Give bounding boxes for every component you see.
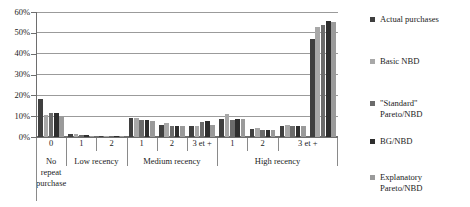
bar bbox=[114, 136, 119, 137]
bar bbox=[59, 117, 64, 137]
legend-swatch-icon bbox=[370, 175, 375, 180]
bar-group bbox=[187, 12, 217, 137]
x-axis-band-labels: No repeat purchaseLow recencyMedium rece… bbox=[36, 151, 338, 203]
bar bbox=[54, 113, 59, 137]
bar bbox=[170, 126, 175, 137]
y-axis-tick-label: 20% bbox=[14, 91, 30, 100]
band-separator bbox=[127, 138, 128, 166]
x-axis-tick-labels: 012123 et +123 et + bbox=[36, 138, 338, 151]
bar bbox=[260, 130, 265, 137]
y-axis-tick-label: 10% bbox=[14, 112, 30, 121]
bar-group bbox=[278, 12, 308, 137]
bar bbox=[90, 136, 95, 137]
bar bbox=[315, 27, 320, 137]
bar bbox=[271, 130, 276, 137]
bar-groups bbox=[36, 12, 338, 137]
legend-swatch-icon bbox=[370, 17, 375, 22]
bar bbox=[321, 25, 326, 138]
bar bbox=[120, 136, 125, 137]
bar bbox=[230, 120, 235, 137]
bar bbox=[68, 134, 73, 137]
legend-label: Basic NBD bbox=[380, 56, 419, 67]
x-axis-tick-label: 2 bbox=[247, 138, 277, 151]
chart-root: 0%10%20%30%40%50%60% 012123 et +123 et +… bbox=[0, 0, 470, 207]
legend-label: Actual purchases bbox=[380, 14, 439, 25]
bar bbox=[74, 134, 79, 137]
bar bbox=[296, 126, 301, 137]
bar bbox=[99, 136, 104, 137]
tick-separator bbox=[96, 138, 97, 151]
bar bbox=[195, 126, 200, 137]
y-axis-tick-label: 30% bbox=[14, 70, 30, 79]
tick-separator bbox=[278, 138, 279, 151]
bar bbox=[266, 130, 271, 138]
legend-label: Explanatory Pareto/NBD bbox=[380, 172, 423, 193]
bar bbox=[104, 136, 109, 137]
legend-item[interactable]: "Standard" Pareto/NBD bbox=[370, 98, 423, 119]
bar bbox=[145, 120, 150, 138]
bar bbox=[235, 119, 240, 137]
legend-item[interactable]: Basic NBD bbox=[370, 56, 419, 67]
bar bbox=[38, 99, 43, 137]
bar bbox=[205, 121, 210, 137]
bar bbox=[109, 136, 114, 137]
bar bbox=[175, 126, 180, 137]
x-axis-band-label: No repeat purchase bbox=[36, 151, 66, 203]
x-axis-tick-label: 3 et + bbox=[187, 138, 217, 151]
bar bbox=[331, 22, 336, 137]
legend-swatch-icon bbox=[370, 139, 375, 144]
legend-item[interactable]: BG/NBD bbox=[370, 136, 412, 147]
chart-legend: Actual purchasesBasic NBD"Standard" Pare… bbox=[370, 14, 470, 199]
bar-group bbox=[247, 12, 277, 137]
bar-group bbox=[127, 12, 157, 137]
legend-label: "Standard" Pareto/NBD bbox=[380, 98, 423, 119]
legend-swatch-icon bbox=[370, 59, 375, 64]
bar bbox=[301, 126, 306, 137]
bar bbox=[134, 118, 139, 137]
bar-group bbox=[36, 12, 66, 137]
bar bbox=[139, 120, 144, 137]
tick-separator bbox=[247, 138, 248, 151]
tick-separator bbox=[157, 138, 158, 151]
bar bbox=[326, 21, 331, 137]
bar bbox=[49, 113, 54, 137]
x-axis-tick-label: 0 bbox=[36, 138, 66, 151]
x-axis-band-label: Medium recency bbox=[127, 151, 218, 203]
x-axis-tick-label: 1 bbox=[66, 138, 96, 151]
bar bbox=[225, 114, 230, 137]
bar-group bbox=[96, 12, 126, 137]
x-axis-tick-label: 2 bbox=[96, 138, 126, 151]
bar bbox=[241, 119, 246, 137]
bar bbox=[159, 125, 164, 137]
legend-item[interactable]: Actual purchases bbox=[370, 14, 439, 25]
bar-group bbox=[217, 12, 247, 137]
bar-group bbox=[66, 12, 96, 137]
y-axis-tick-label: 60% bbox=[14, 8, 30, 17]
bar bbox=[290, 126, 295, 137]
bar bbox=[280, 126, 285, 137]
bar bbox=[250, 129, 255, 137]
bar bbox=[44, 115, 49, 137]
bar bbox=[79, 135, 84, 137]
legend-label: BG/NBD bbox=[380, 136, 412, 147]
bar bbox=[189, 126, 194, 137]
band-separator bbox=[337, 138, 338, 166]
x-axis-band-label: High recency bbox=[217, 151, 338, 203]
y-axis-tick-label: 50% bbox=[14, 28, 30, 37]
bar bbox=[164, 123, 169, 137]
legend-item[interactable]: Explanatory Pareto/NBD bbox=[370, 172, 423, 193]
bar bbox=[84, 135, 89, 137]
bar bbox=[210, 125, 215, 137]
band-separator bbox=[66, 138, 67, 166]
y-axis-labels: 0%10%20%30%40%50%60% bbox=[0, 0, 36, 137]
bar bbox=[180, 126, 185, 137]
x-axis-tick-label: 1 bbox=[217, 138, 247, 151]
bar-group bbox=[157, 12, 187, 137]
x-axis-tick-label: 2 bbox=[157, 138, 187, 151]
band-separator bbox=[36, 138, 37, 201]
bar bbox=[219, 119, 224, 137]
band-separator bbox=[217, 138, 218, 166]
bar bbox=[255, 128, 260, 137]
legend-swatch-icon bbox=[370, 101, 375, 106]
plot-area bbox=[36, 12, 338, 137]
